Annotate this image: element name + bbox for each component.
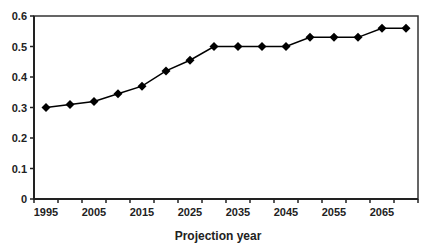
diamond-marker-icon <box>234 42 243 51</box>
diamond-marker-icon <box>90 97 99 106</box>
x-tick-label: 2055 <box>322 206 346 218</box>
x-tick-label: 1995 <box>34 206 58 218</box>
y-tick-label: 0.4 <box>12 71 28 83</box>
diamond-marker-icon <box>354 33 363 42</box>
diamond-marker-icon <box>162 66 171 75</box>
x-axis-title: Projection year <box>175 229 262 243</box>
line-chart: 00.10.20.30.40.50.6 19952005201520252035… <box>0 0 425 248</box>
series-line <box>46 28 406 107</box>
plot-area <box>34 16 418 199</box>
diamond-marker-icon <box>42 103 51 112</box>
data-series <box>42 24 411 112</box>
x-axis: 19952005201520252035204520552065 <box>34 199 418 218</box>
diamond-marker-icon <box>378 24 387 33</box>
y-tick-label: 0 <box>21 193 27 205</box>
diamond-marker-icon <box>186 56 195 65</box>
diamond-marker-icon <box>282 42 291 51</box>
y-tick-label: 0.1 <box>12 163 27 175</box>
diamond-marker-icon <box>138 82 147 91</box>
y-tick-label: 0.2 <box>12 132 27 144</box>
y-tick-label: 0.6 <box>12 10 27 22</box>
x-tick-label: 2045 <box>274 206 298 218</box>
diamond-marker-icon <box>114 89 123 98</box>
diamond-marker-icon <box>330 33 339 42</box>
diamond-marker-icon <box>210 42 219 51</box>
diamond-marker-icon <box>402 24 411 33</box>
x-tick-label: 2025 <box>178 206 202 218</box>
y-tick-label: 0.3 <box>12 102 27 114</box>
y-tick-label: 0.5 <box>12 41 27 53</box>
diamond-marker-icon <box>306 33 315 42</box>
x-tick-label: 2035 <box>226 206 250 218</box>
y-axis: 00.10.20.30.40.50.6 <box>12 10 34 205</box>
diamond-marker-icon <box>66 100 75 109</box>
diamond-marker-icon <box>258 42 267 51</box>
x-tick-label: 2015 <box>130 206 154 218</box>
x-tick-label: 2005 <box>82 206 106 218</box>
x-tick-label: 2065 <box>370 206 394 218</box>
plot-border <box>34 16 418 199</box>
